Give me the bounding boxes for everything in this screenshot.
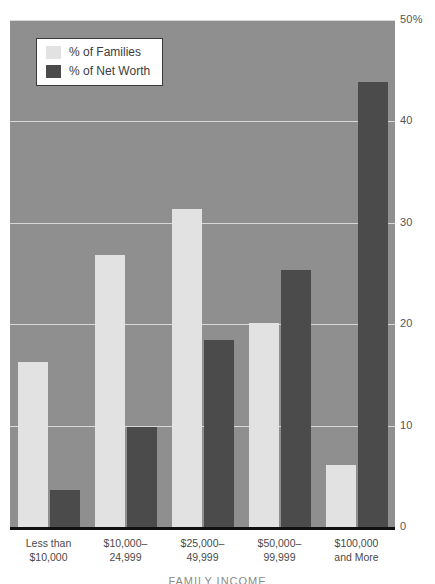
legend: % of Families % of Net Worth bbox=[36, 38, 163, 86]
y-axis-tick-label: 30 bbox=[400, 217, 413, 228]
y-axis-tick-label: 40 bbox=[400, 115, 413, 126]
bar-chart: 50%403020100 Less than$10,000$10,000–24,… bbox=[0, 0, 435, 584]
y-axis-tick-label: 20 bbox=[400, 318, 413, 329]
x-axis-tick-label: $100,000and More bbox=[318, 536, 395, 564]
legend-item: % of Families bbox=[46, 46, 150, 59]
legend-label-networth: % of Net Worth bbox=[69, 65, 150, 78]
bar-networth bbox=[204, 340, 234, 527]
x-axis-tick-label: $10,000–24,999 bbox=[87, 536, 164, 564]
x-axis-title: FAMILY INCOME bbox=[0, 575, 435, 584]
y-axis-tick-label: 50% bbox=[400, 14, 423, 25]
bar-group bbox=[241, 20, 318, 528]
bar-networth bbox=[50, 490, 80, 527]
legend-item: % of Net Worth bbox=[46, 65, 150, 78]
bar-group bbox=[87, 20, 164, 528]
x-axis-tick-label-line2: 49,999 bbox=[164, 550, 241, 564]
x-axis-tick-label-line2: $10,000 bbox=[10, 550, 87, 564]
x-axis-tick-label-line2: 99,999 bbox=[241, 550, 318, 564]
x-axis-tick-label-line1: $25,000– bbox=[164, 536, 241, 550]
legend-swatch-families-icon bbox=[46, 46, 61, 59]
x-axis-tick-label: $50,000–99,999 bbox=[241, 536, 318, 564]
bar-families bbox=[326, 465, 356, 527]
legend-label-families: % of Families bbox=[69, 46, 141, 59]
x-axis-tick-label-line1: $50,000– bbox=[241, 536, 318, 550]
y-axis-tick-label: 0 bbox=[400, 521, 406, 532]
x-axis: Less than$10,000$10,000–24,999$25,000–49… bbox=[10, 536, 395, 576]
bar-group bbox=[318, 20, 395, 528]
bar-networth bbox=[281, 270, 311, 527]
x-axis-tick-label-line1: $100,000 bbox=[318, 536, 395, 550]
x-axis-tick-label-line2: and More bbox=[318, 550, 395, 564]
x-axis-tick-label: $25,000–49,999 bbox=[164, 536, 241, 564]
x-axis-tick-label-line2: 24,999 bbox=[87, 550, 164, 564]
bar-families bbox=[172, 209, 202, 527]
bar-group bbox=[10, 20, 87, 528]
plot-area bbox=[10, 20, 395, 528]
y-axis-tick-label: 10 bbox=[400, 420, 413, 431]
x-axis-line bbox=[10, 527, 395, 530]
bar-families bbox=[95, 255, 125, 527]
y-axis: 50%403020100 bbox=[400, 0, 435, 584]
bar-group bbox=[164, 20, 241, 528]
bar-networth bbox=[358, 82, 388, 527]
bar-families bbox=[249, 323, 279, 527]
x-axis-tick-label-line1: $10,000– bbox=[87, 536, 164, 550]
x-axis-tick-label: Less than$10,000 bbox=[10, 536, 87, 564]
bars-layer bbox=[10, 20, 395, 528]
bar-networth bbox=[127, 427, 157, 527]
x-axis-tick-label-line1: Less than bbox=[10, 536, 87, 550]
bar-families bbox=[18, 362, 48, 527]
legend-swatch-networth-icon bbox=[46, 65, 61, 78]
